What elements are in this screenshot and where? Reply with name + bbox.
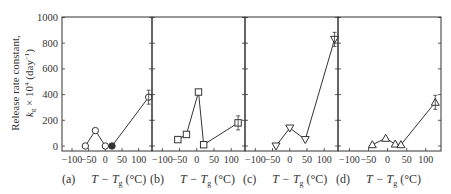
y-tick-label: 0: [53, 141, 58, 152]
panel-a-caption: (a)T − Tg (°C): [62, 172, 146, 188]
x-tick-label: 0: [385, 154, 390, 165]
panel-b-xlabel: T − T: [180, 172, 207, 186]
x-tick-label: −50: [81, 154, 97, 165]
x-tick-label: −100: [339, 154, 360, 165]
data-point-marker: [301, 137, 309, 144]
x-tick-label: −50: [361, 154, 377, 165]
panel-d-tag: (d): [336, 172, 350, 186]
data-point-marker: [82, 143, 88, 149]
panel-a-xlabel: T − T: [91, 172, 118, 186]
data-point-marker: [272, 143, 280, 150]
panel-c: −100−50050100: [245, 17, 339, 165]
panel-d: −100−50050100: [338, 17, 441, 165]
chart-figure: 02004006008001000−100−50050100−100−50050…: [0, 0, 451, 194]
panel-b: −100−50050100: [152, 17, 245, 165]
x-tick-label: 50: [402, 154, 412, 165]
data-point-marker: [109, 143, 115, 149]
data-point-marker: [195, 89, 201, 95]
y-tick-label: 800: [42, 38, 58, 49]
panel-c-tag: (c): [243, 172, 256, 186]
data-point-marker: [368, 141, 376, 148]
panel-d-xlabel: T − T: [366, 172, 393, 186]
x-tick-label: −100: [245, 154, 266, 165]
x-tick-label: −100: [152, 154, 173, 165]
y-tick-label: 200: [42, 115, 58, 126]
y-tick-label: 600: [42, 63, 58, 74]
data-point-marker: [183, 131, 189, 137]
data-point-marker: [382, 134, 390, 141]
panel-b-tag: (b): [150, 172, 164, 186]
x-tick-label: 100: [131, 154, 146, 165]
x-tick-label: 0: [287, 154, 292, 165]
x-tick-label: 50: [117, 154, 127, 165]
data-point-marker: [200, 142, 206, 148]
x-tick-label: 100: [224, 154, 239, 165]
x-tick-label: 50: [302, 154, 312, 165]
data-point-marker: [92, 127, 98, 133]
x-tick-label: −50: [265, 154, 281, 165]
panel-c-caption: (c)T − Tg (°C): [243, 172, 327, 188]
y-axis-label: Release rate constant, kg × 104 (day−1): [2, 18, 42, 148]
x-tick-label: 50: [209, 154, 219, 165]
panel-d-caption: (d)T − Tg (°C): [336, 172, 421, 188]
x-tick-label: 100: [418, 154, 433, 165]
panel-c-xlabel: T − T: [272, 172, 299, 186]
x-tick-label: −100: [62, 154, 83, 165]
x-tick-label: 0: [194, 154, 199, 165]
x-tick-label: 0: [103, 154, 108, 165]
x-tick-label: 100: [317, 154, 332, 165]
data-point-marker: [102, 143, 108, 149]
panel-a-tag: (a): [62, 172, 75, 186]
y-axis-label-line2: kg × 104 (day−1): [23, 49, 37, 117]
y-tick-label: 400: [42, 89, 58, 100]
panel-a: −100−50050100: [62, 17, 152, 165]
data-point-marker: [175, 136, 181, 142]
x-tick-label: −50: [172, 154, 188, 165]
panel-b-caption: (b)T − Tg (°C): [150, 172, 235, 188]
y-axis-label-line1: Release rate constant,: [9, 35, 21, 131]
